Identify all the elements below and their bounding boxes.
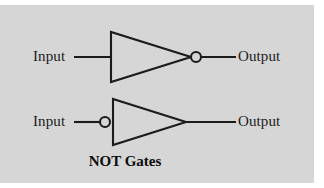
figure-caption: NOT Gates bbox=[0, 153, 250, 169]
bottom-gate-input-label: Input bbox=[33, 114, 65, 129]
bottom-gate-triangle bbox=[113, 99, 186, 145]
top-gate-triangle bbox=[111, 32, 191, 82]
bottom-gate-inversion-bubble bbox=[100, 117, 110, 127]
top-gate-inversion-bubble bbox=[191, 52, 201, 62]
diagram-plate: Input Output Input Output NOT Gates bbox=[0, 5, 314, 183]
bottom-gate-output-label: Output bbox=[238, 114, 280, 129]
top-gate-input-label: Input bbox=[33, 49, 65, 64]
top-gate-output-label: Output bbox=[238, 49, 280, 64]
figure-container: Input Output Input Output NOT Gates bbox=[0, 0, 324, 188]
